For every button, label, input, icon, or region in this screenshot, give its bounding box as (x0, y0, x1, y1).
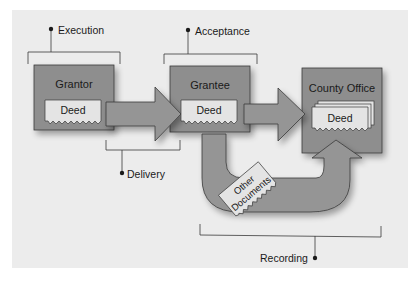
acceptance-label: Acceptance (195, 25, 250, 37)
recording-label: Recording (260, 252, 308, 264)
arrow-grantee-to-county (244, 88, 305, 141)
county-deed-label: Deed (312, 112, 368, 124)
delivery-dot (120, 171, 124, 175)
grantor-deed-label: Deed (45, 104, 101, 116)
grantee-label: Grantee (170, 79, 250, 91)
execution-label: Execution (58, 24, 104, 36)
acceptance-dot (186, 28, 190, 32)
recording-dot (313, 256, 317, 260)
diagram-graphics: Other Documents (0, 0, 419, 281)
execution-dot (49, 27, 53, 31)
county-office-label: County Office (302, 82, 382, 94)
grantee-deed-label: Deed (181, 104, 237, 116)
delivery-label: Delivery (127, 168, 165, 180)
grantor-label: Grantor (34, 78, 114, 90)
